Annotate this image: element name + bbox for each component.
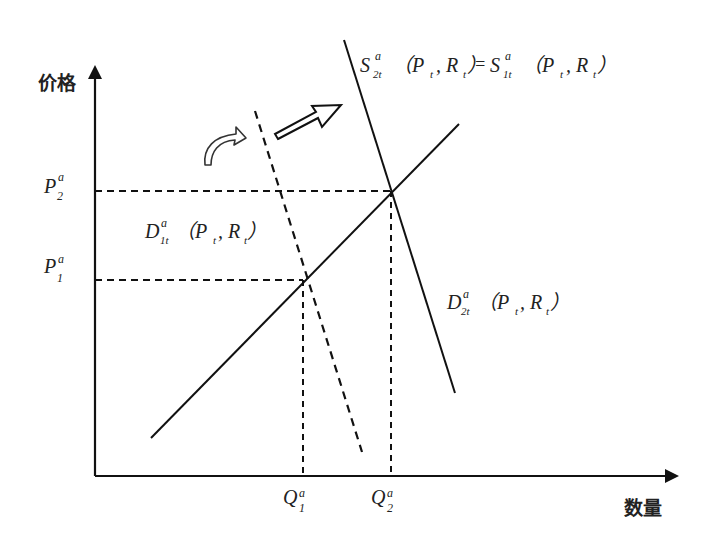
svg-text:D: D <box>446 291 462 313</box>
demand-curve-2-label: D a 2t （P t , R t ） <box>446 287 570 317</box>
svg-text:）: ） <box>597 54 617 76</box>
svg-text:t: t <box>213 234 217 246</box>
supply-demand-diagram: 价格 数量 P a 2 P a 1 Q a 1 Q a 2 S <box>0 0 722 554</box>
price-label-p2: P a 2 <box>43 170 64 203</box>
svg-text:（P: （P <box>477 291 509 313</box>
svg-text:2t: 2t <box>373 68 383 80</box>
svg-text:1t: 1t <box>503 68 513 80</box>
demand-curve-2 <box>344 40 455 393</box>
svg-text:S: S <box>360 54 370 76</box>
svg-text:=: = <box>474 54 486 74</box>
svg-text:a: a <box>505 49 511 63</box>
demand-curve-1 <box>255 111 362 452</box>
quantity-label-q1: Q a 1 <box>283 486 305 515</box>
svg-text:t: t <box>430 68 434 80</box>
svg-text:1: 1 <box>57 271 63 285</box>
svg-text:2: 2 <box>57 189 63 203</box>
svg-text:（P: （P <box>522 54 554 76</box>
svg-text:a: a <box>58 170 64 184</box>
svg-text:, R: , R <box>520 291 542 313</box>
svg-text:, R: , R <box>566 54 588 76</box>
svg-text:D: D <box>144 220 160 242</box>
svg-text:）: ） <box>550 291 570 313</box>
supply-curve <box>151 124 459 438</box>
svg-text:, R: , R <box>218 220 240 242</box>
svg-text:1: 1 <box>299 501 305 515</box>
svg-text:2t: 2t <box>461 305 471 317</box>
y-axis-label: 价格 <box>38 72 77 94</box>
svg-text:a: a <box>299 486 305 500</box>
svg-text:t: t <box>515 305 519 317</box>
svg-text:P: P <box>43 255 56 277</box>
svg-text:a: a <box>375 49 381 63</box>
svg-text:a: a <box>58 252 64 266</box>
demand-curve-1-label: D a 1t （P t , R t ） <box>144 216 267 246</box>
svg-text:a: a <box>463 287 469 301</box>
svg-text:Q: Q <box>371 486 386 508</box>
svg-text:2: 2 <box>387 501 393 515</box>
svg-text:Q: Q <box>283 486 298 508</box>
curved-shift-arrow-icon <box>205 127 246 165</box>
supply-curve-label: S a 2t （P t , R t ） = S a 1t （P t , R t … <box>360 49 617 80</box>
svg-text:（P: （P <box>175 220 207 242</box>
quantity-label-q2: Q a 2 <box>371 486 393 515</box>
svg-text:a: a <box>161 216 167 230</box>
svg-text:（P: （P <box>392 54 424 76</box>
price-label-p1: P a 1 <box>43 252 64 285</box>
svg-text:S: S <box>490 54 500 76</box>
svg-text:a: a <box>387 486 393 500</box>
svg-text:, R: , R <box>436 54 458 76</box>
svg-text:）: ） <box>247 220 267 242</box>
svg-text:t: t <box>560 68 564 80</box>
x-axis-label: 数量 <box>624 497 662 519</box>
outlined-shift-arrow-icon <box>275 97 341 139</box>
svg-text:P: P <box>43 175 56 197</box>
svg-text:1t: 1t <box>160 234 170 246</box>
